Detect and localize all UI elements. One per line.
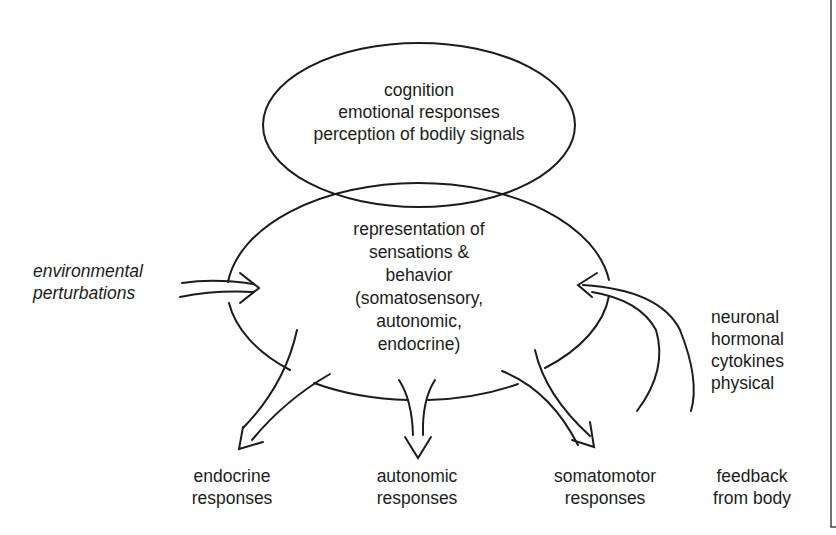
somatomotor-line-2: responses: [554, 487, 656, 509]
environmental-input-arrow: [180, 273, 259, 303]
somatomotor-output-arrow: [502, 350, 594, 447]
center-line-3: behavior: [353, 264, 484, 287]
autonomic-line-2: responses: [377, 487, 458, 509]
top-line-perception: perception of bodily signals: [313, 123, 524, 145]
autonomic-responses-label: autonomic responses: [377, 465, 458, 509]
somatomotor-line-1: somatomotor: [554, 465, 656, 487]
top-line-emotional: emotional responses: [313, 101, 524, 123]
center-ellipse-lower-right: [545, 296, 609, 368]
environmental-line-1: environmental: [33, 260, 143, 282]
somatomotor-responses-label: somatomotor responses: [554, 465, 656, 509]
feedback-line-2: from body: [713, 487, 791, 509]
body-feedback-arrow: [578, 273, 694, 411]
endocrine-output-arrow: [239, 330, 330, 449]
autonomic-line-1: autonomic: [377, 465, 458, 487]
endocrine-responses-label: endocrine responses: [192, 465, 273, 509]
signal-neuronal: neuronal: [711, 306, 784, 328]
environmental-label: environmental perturbations: [33, 260, 143, 304]
center-ellipse-lower-mid2: [428, 384, 518, 400]
center-line-6: endocrine): [353, 333, 484, 356]
center-line-1: representation of: [353, 218, 484, 241]
autonomic-output-arrow: [399, 380, 435, 458]
top-line-cognition: cognition: [313, 79, 524, 101]
feedback-from-body-label: feedback from body: [713, 465, 791, 509]
right-border-line: [831, 0, 836, 527]
center-ellipse-lower-mid: [314, 383, 408, 400]
endocrine-line-1: endocrine: [192, 465, 273, 487]
feedback-line-1: feedback: [713, 465, 791, 487]
center-line-5: autonomic,: [353, 310, 484, 333]
endocrine-line-2: responses: [192, 487, 273, 509]
body-signals-label: neuronal hormonal cytokines physical: [711, 306, 784, 394]
environmental-line-2: perturbations: [33, 282, 143, 304]
signal-physical: physical: [711, 372, 784, 394]
signal-hormonal: hormonal: [711, 328, 784, 350]
signal-cytokines: cytokines: [711, 350, 784, 372]
center-ellipse-label: representation of sensations & behavior …: [353, 218, 484, 356]
center-line-2: sensations &: [353, 241, 484, 264]
center-ellipse-lower-left: [229, 303, 290, 370]
top-ellipse-label: cognition emotional responses perception…: [313, 79, 524, 145]
center-line-4: (somatosensory,: [353, 287, 484, 310]
